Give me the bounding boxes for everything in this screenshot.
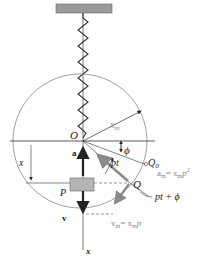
mass-block (70, 178, 94, 191)
origin-label: O (70, 129, 78, 141)
angle-label: pt (110, 157, 119, 168)
phase-label: ϕ (124, 144, 130, 156)
velocity-vector (115, 184, 129, 203)
accel-equation: am= xmp2 (157, 167, 190, 179)
velocity-axis-label: v (62, 213, 67, 223)
vibration-diagram: O xm ϕ pt Q0 Q a am= xmp2 pt + ϕ v vm= x… (0, 0, 210, 258)
radius-label: xm (109, 119, 120, 132)
displacement-label: x (18, 157, 24, 168)
axis-label: x (85, 246, 91, 256)
velocity-equation: vm= xmp (111, 218, 142, 229)
mass-label: P (59, 187, 66, 198)
total-phase-label: pt + ϕ (154, 191, 180, 202)
accel-axis-label: a (72, 148, 77, 158)
q-label: Q (133, 178, 141, 190)
ceiling-support (56, 4, 112, 13)
